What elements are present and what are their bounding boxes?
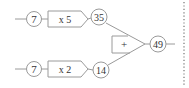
row1-out-line xyxy=(88,18,91,19)
adder-operation-label: + xyxy=(121,38,127,50)
row2-out-line xyxy=(88,69,93,70)
row2-output-value: 14 xyxy=(96,65,106,76)
row1-operation-label: x 5 xyxy=(59,14,72,25)
row1-input-value: 7 xyxy=(31,13,37,25)
row2-input-value: 7 xyxy=(31,63,37,75)
row1-output-value: 35 xyxy=(94,12,104,23)
result-value: 49 xyxy=(153,39,163,50)
arithmetic-flow-diagram: 7 x 5 35 7 x 2 14 + 49 xyxy=(0,0,189,88)
row2-operation-label: x 2 xyxy=(59,64,72,75)
